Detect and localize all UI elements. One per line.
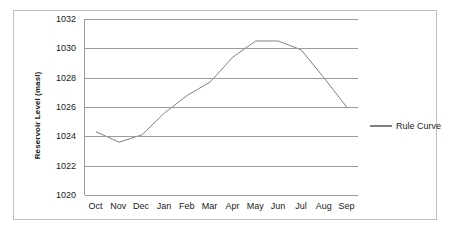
x-axis-tick-label: Jul [295, 201, 307, 211]
gridline [85, 78, 358, 79]
y-axis-tick-label: 1030 [56, 43, 76, 53]
x-axis-tick-label: Feb [179, 201, 195, 211]
gridline [85, 48, 358, 49]
x-axis-tick-label: Mar [202, 201, 218, 211]
x-axis-tick-label: Sep [339, 201, 355, 211]
y-axis-tick-label: 1024 [56, 131, 76, 141]
y-axis-title-label: Reservoir Level (masl) [34, 71, 43, 159]
x-axis-tick-label: Jan [157, 201, 172, 211]
legend-label-rule-curve: Rule Curve [396, 121, 441, 131]
legend-swatch-rule-curve [370, 125, 392, 127]
y-axis-tick-label: 1032 [56, 14, 76, 24]
gridline [85, 136, 358, 137]
chart-frame: Reservoir Level (masl) 10201022102410261… [13, 10, 437, 220]
y-axis-tick-label: 1028 [56, 73, 76, 83]
x-axis-tick-label: Aug [316, 201, 332, 211]
x-axis-tick-label: Oct [88, 201, 102, 211]
y-axis-title: Reservoir Level (masl) [29, 11, 47, 219]
gridline [85, 19, 358, 20]
y-axis-tick-label: 1026 [56, 102, 76, 112]
legend: Rule Curve [370, 121, 441, 131]
x-axis-tick-label: May [247, 201, 264, 211]
x-axis-tick-label: Jun [271, 201, 286, 211]
x-axis-tick-label: Nov [110, 201, 126, 211]
plot-wrapper: 1020102210241026102810301032 OctNovDecJa… [48, 19, 358, 215]
data-line [96, 41, 346, 142]
gridline [85, 166, 358, 167]
gridline [85, 195, 358, 196]
gridline [85, 107, 358, 108]
plot-area [84, 19, 358, 195]
x-axis-tick-label: Apr [225, 201, 239, 211]
x-axis-tick-labels: OctNovDecJanFebMarAprMayJunJulAugSep [84, 197, 358, 215]
y-axis-tick-label: 1022 [56, 161, 76, 171]
y-axis-tick-labels: 1020102210241026102810301032 [48, 19, 80, 215]
x-axis-tick-label: Dec [133, 201, 149, 211]
y-axis-tick-label: 1020 [56, 190, 76, 200]
